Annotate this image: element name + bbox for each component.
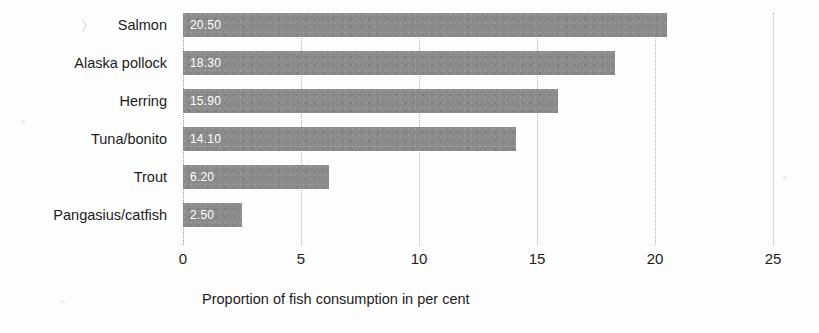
bar-row: 15.90 — [183, 89, 773, 113]
xtick-20: 20 — [647, 250, 664, 267]
bar-chart: 〉 Salmon Alaska pollock Herring Tuna/bon… — [0, 0, 819, 333]
scan-artifact — [783, 176, 787, 180]
bar-value-label: 18.30 — [190, 51, 221, 75]
category-label-text: Salmon — [118, 17, 167, 33]
bar-value-label: 6.20 — [190, 165, 214, 189]
bar-value-label: 20.50 — [190, 13, 221, 37]
category-label-pangasius-catfish: Pangasius/catfish — [53, 203, 167, 227]
xtick-25: 25 — [765, 250, 782, 267]
bar-herring[interactable]: 15.90 — [183, 89, 558, 113]
xtick-10: 10 — [411, 250, 428, 267]
bar-row: 18.30 — [183, 51, 773, 75]
xtick-5: 5 — [297, 250, 305, 267]
bar-value-label: 15.90 — [190, 89, 221, 113]
bar-series: 20.50 18.30 15.90 14.10 6.20 — [183, 13, 773, 245]
category-label-trout: Trout — [134, 165, 167, 189]
x-axis-title: Proportion of fish consumption in per ce… — [202, 291, 470, 307]
gridline-25 — [773, 13, 774, 245]
bar-row: 6.20 — [183, 165, 773, 189]
bar-row: 20.50 — [183, 13, 773, 37]
bar-value-label: 2.50 — [190, 203, 214, 227]
bar-alaska-pollock[interactable]: 18.30 — [183, 51, 615, 75]
category-label-alaska-pollock: Alaska pollock — [74, 51, 167, 75]
category-label-herring: Herring — [119, 89, 167, 113]
xtick-15: 15 — [529, 250, 546, 267]
salmon-leader-mark: 〉 — [81, 13, 95, 37]
bar-salmon[interactable]: 20.50 — [183, 13, 667, 37]
bar-row: 2.50 — [183, 203, 773, 227]
bar-row: 14.10 — [183, 127, 773, 151]
bar-value-label: 14.10 — [190, 127, 221, 151]
category-label-salmon: 〉 Salmon — [118, 13, 167, 37]
plot-area: 20.50 18.30 15.90 14.10 6.20 — [183, 13, 773, 245]
category-label-tuna-bonito: Tuna/bonito — [91, 127, 167, 151]
bar-pangasius-catfish[interactable]: 2.50 — [183, 203, 242, 227]
bar-trout[interactable]: 6.20 — [183, 165, 329, 189]
xtick-0: 0 — [179, 250, 187, 267]
scan-artifact — [60, 300, 65, 303]
bar-tuna-bonito[interactable]: 14.10 — [183, 127, 516, 151]
category-axis: 〉 Salmon Alaska pollock Herring Tuna/bon… — [0, 13, 175, 245]
